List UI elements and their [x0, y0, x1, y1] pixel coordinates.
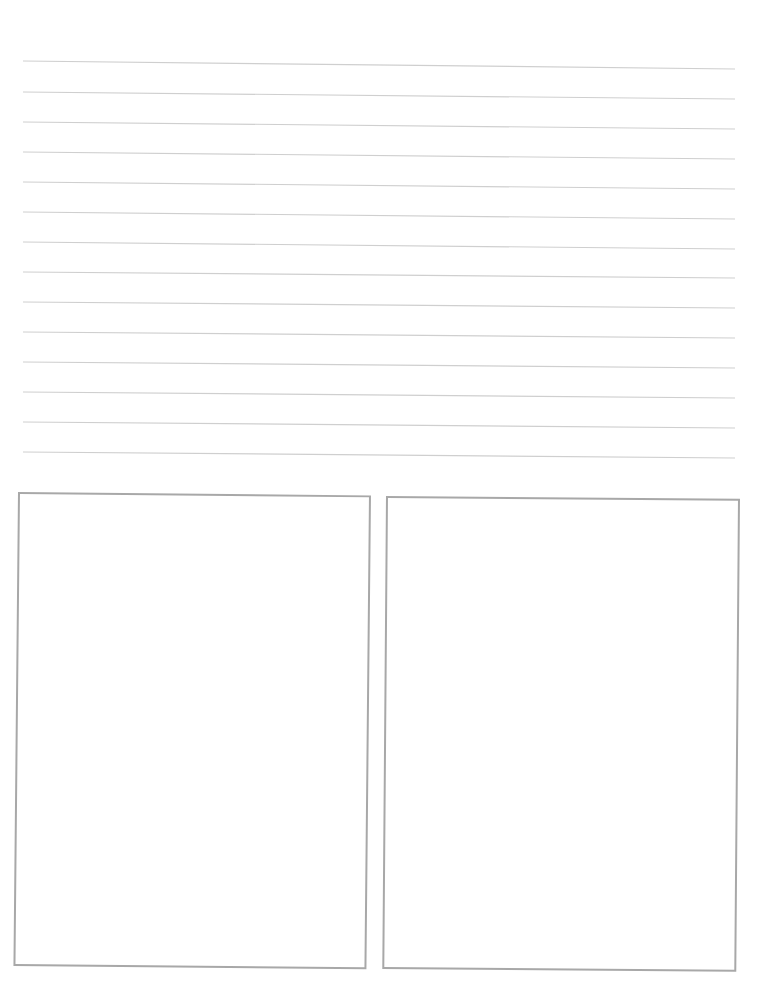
ruled-line [23, 332, 735, 338]
ruled-line [23, 182, 735, 189]
ruled-line [23, 272, 735, 278]
ruled-line [23, 392, 735, 398]
ruled-line [23, 422, 735, 428]
drawing-box-left[interactable] [13, 492, 371, 969]
worksheet-page [0, 0, 773, 1002]
ruled-line [23, 212, 735, 219]
ruled-lines-group [23, 61, 735, 458]
ruled-line [23, 92, 735, 99]
ruled-line [23, 362, 735, 368]
ruled-line [23, 152, 735, 159]
ruled-line [23, 242, 735, 249]
ruled-line [23, 452, 735, 458]
ruled-line [23, 302, 735, 308]
ruled-lines [0, 0, 773, 480]
ruled-line [23, 122, 735, 129]
ruled-line [23, 61, 735, 69]
drawing-box-right[interactable] [382, 496, 740, 972]
